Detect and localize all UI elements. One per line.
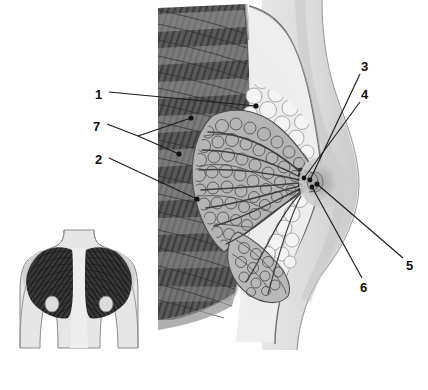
label-1: 1 [95, 87, 102, 102]
label-5: 5 [406, 258, 413, 273]
label-6: 6 [360, 280, 367, 295]
label-3: 3 [361, 59, 368, 74]
label-7: 7 [93, 119, 100, 134]
breast-anatomy-figure: 1 7 2 3 4 5 6 [0, 0, 428, 390]
label-2: 2 [95, 152, 102, 167]
label-4: 4 [361, 87, 369, 102]
